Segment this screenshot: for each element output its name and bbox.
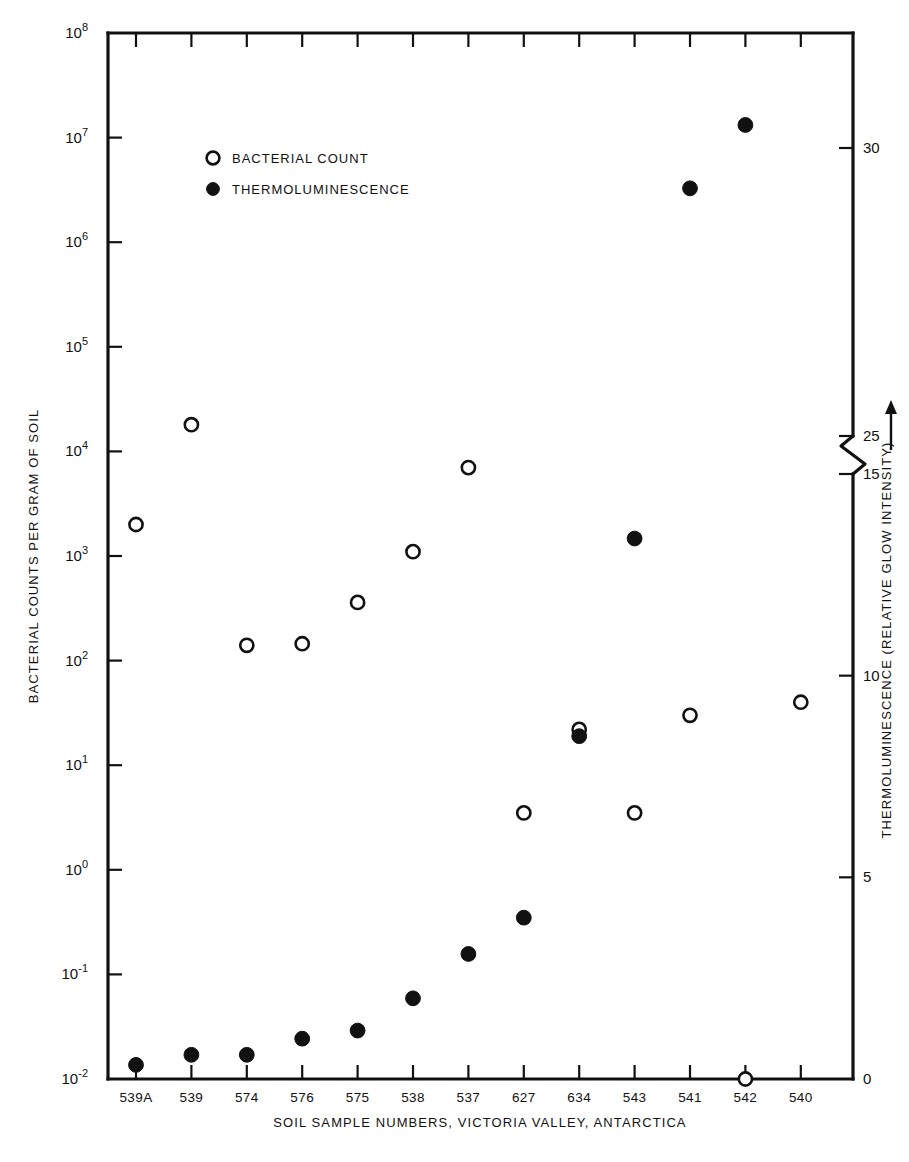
data-point-bacterial-count	[683, 709, 696, 722]
data-point-bacterial-count	[351, 596, 364, 609]
x-tick-label: 627	[512, 1090, 536, 1105]
x-tick-label: 538	[401, 1090, 425, 1105]
series-thermoluminescence	[129, 0, 809, 1072]
data-point-bacterial-count	[628, 806, 641, 819]
y-axis-title: BACTERIAL COUNTS PER GRAM OF SOIL	[26, 409, 41, 703]
x-tick-label: 539	[180, 1090, 204, 1105]
y-tick-label: 10-1	[62, 962, 88, 982]
right-axis-tick-labels: 0510152530	[863, 139, 880, 1087]
y-tick-label: 103	[65, 544, 88, 564]
data-point-bacterial-count	[462, 461, 475, 474]
y-tick-label: 108	[65, 21, 88, 41]
legend-marker-open-circle	[207, 152, 220, 165]
data-point-thermoluminescence	[184, 1047, 199, 1062]
data-point-bacterial-count	[406, 545, 419, 558]
y2-tick-label: 5	[863, 868, 871, 885]
y-tick-label: 102	[65, 649, 88, 669]
y2-tick-label: 25	[863, 427, 880, 444]
right-axis-break-icon	[841, 436, 865, 474]
x-tick-label: 575	[346, 1090, 370, 1105]
legend-label-thermoluminescence: THERMOLUMINESCENCE	[232, 182, 410, 197]
scatter-chart: 10-210-1100101102103104105106107108 0510…	[0, 0, 909, 1162]
right-axis-ticks	[839, 148, 853, 877]
x-tick-label: 574	[235, 1090, 259, 1105]
data-point-thermoluminescence	[461, 947, 476, 962]
data-point-thermoluminescence	[738, 118, 753, 133]
y2-tick-label: 30	[863, 139, 880, 156]
data-point-thermoluminescence	[295, 1031, 310, 1046]
y-tick-label: 100	[65, 858, 88, 878]
legend-label-bacterial-count: BACTERIAL COUNT	[232, 151, 369, 166]
x-axis-ticks	[136, 1065, 801, 1079]
data-point-thermoluminescence	[516, 910, 531, 925]
plot-frame	[108, 33, 865, 1079]
x-axis-title: SOIL SAMPLE NUMBERS, VICTORIA VALLEY, AN…	[273, 1115, 686, 1130]
x-tick-label: 541	[678, 1090, 702, 1105]
x-axis-tick-labels: 539A539574576575538537627634543541542540	[119, 1090, 812, 1105]
data-point-thermoluminescence	[572, 729, 587, 744]
y2-tick-label: 15	[863, 465, 880, 482]
x-tick-label: 634	[567, 1090, 591, 1105]
x-tick-label: 537	[457, 1090, 481, 1105]
x-tick-label: 539A	[119, 1090, 152, 1105]
legend-marker-filled-circle	[207, 183, 220, 196]
x-tick-label: 543	[623, 1090, 647, 1105]
data-point-bacterial-count	[739, 1072, 752, 1085]
figure-container: 10-210-1100101102103104105106107108 0510…	[0, 0, 909, 1162]
data-point-thermoluminescence	[406, 991, 421, 1006]
top-axis-ticks	[136, 33, 801, 47]
data-point-thermoluminescence	[239, 1047, 254, 1062]
left-axis-tick-labels: 10-210-1100101102103104105106107108	[62, 21, 88, 1087]
chart-legend: BACTERIAL COUNT THERMOLUMINESCENCE	[207, 151, 410, 197]
data-point-bacterial-count	[129, 518, 142, 531]
data-point-bacterial-count	[240, 639, 253, 652]
x-tick-label: 576	[290, 1090, 314, 1105]
y-tick-label: 104	[65, 439, 88, 459]
data-point-bacterial-count	[794, 696, 807, 709]
y-tick-label: 107	[65, 126, 88, 146]
y-tick-label: 10-2	[62, 1067, 88, 1087]
y2-tick-label: 0	[863, 1070, 871, 1087]
x-tick-label: 540	[789, 1090, 813, 1105]
y-tick-label: 106	[65, 230, 88, 250]
y2-axis-title: THERMOLUMINESCENCE (RELATIVE GLOW INTENS…	[879, 441, 894, 838]
y2-tick-label: 10	[863, 667, 880, 684]
y-tick-label: 105	[65, 335, 88, 355]
data-point-bacterial-count	[517, 806, 530, 819]
x-tick-label: 542	[734, 1090, 758, 1105]
y-tick-label: 101	[65, 753, 88, 773]
data-point-thermoluminescence	[350, 1023, 365, 1038]
data-point-thermoluminescence	[683, 181, 698, 196]
data-point-bacterial-count	[185, 418, 198, 431]
series-bacterial-count	[129, 418, 807, 1086]
left-axis-ticks	[108, 138, 122, 975]
data-point-thermoluminescence	[129, 1057, 144, 1072]
data-point-bacterial-count	[296, 637, 309, 650]
data-point-thermoluminescence	[627, 531, 642, 546]
